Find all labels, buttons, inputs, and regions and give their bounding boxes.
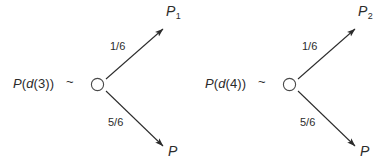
terminal-node-upper: P1: [166, 3, 181, 21]
root-node-circle: [91, 78, 103, 90]
edge-probability-upper: 1/6: [302, 40, 317, 52]
terminal-upper-subscript: 1: [176, 11, 181, 21]
edge-probability-upper: 1/6: [110, 40, 125, 52]
root-expression-label: P(d(3)): [13, 76, 54, 91]
probability-branching-figure: P(d(3)) ~ 1/6 5/6 P1 P P(d(4)) ~: [0, 0, 383, 164]
distributed-as-operator: ~: [258, 74, 266, 89]
terminal-node-upper: P2: [358, 3, 373, 21]
edge-upper: [106, 29, 163, 79]
terminal-upper-subscript: 2: [368, 11, 373, 21]
distributed-as-operator: ~: [66, 74, 74, 89]
terminal-upper-base: P: [358, 3, 367, 19]
terminal-lower-base: P: [360, 143, 369, 159]
edge-probability-lower: 5/6: [108, 116, 123, 128]
terminal-upper-base: P: [166, 3, 175, 19]
root-inner-function: d: [26, 76, 33, 91]
terminal-node-lower: P: [168, 143, 178, 161]
root-node-circle: [283, 78, 295, 90]
branching-diagram-right: P(d(4)) ~ 1/6 5/6 P2 P: [191, 0, 383, 164]
branching-diagram-left: P(d(3)) ~ 1/6 5/6 P1 P: [0, 0, 192, 164]
root-close-paren: ): [50, 76, 54, 91]
root-function: P: [205, 76, 214, 91]
edge-upper: [298, 29, 355, 79]
terminal-lower-base: P: [168, 143, 177, 159]
root-close-paren: ): [242, 76, 246, 91]
root-expression-label: P(d(4)): [205, 76, 246, 91]
root-inner-function: d: [218, 76, 225, 91]
terminal-node-lower: P: [360, 143, 370, 161]
root-function: P: [13, 76, 22, 91]
edge-probability-lower: 5/6: [300, 116, 315, 128]
